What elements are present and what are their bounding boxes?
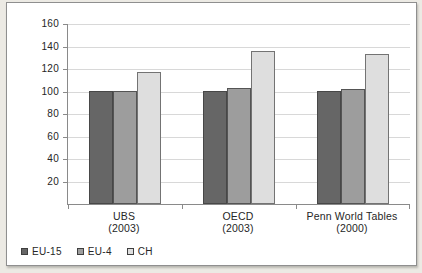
gridline-120	[68, 69, 410, 70]
plot-area	[67, 24, 410, 205]
bar-EU-15-UBS	[89, 91, 113, 204]
y-tick-label-60: 60	[7, 132, 59, 142]
gridline-140	[68, 47, 410, 48]
legend-label-EU-4: EU-4	[88, 246, 112, 257]
bar-EU-4-Penn World Tables	[341, 89, 365, 204]
x-tick-2	[296, 205, 297, 209]
y-axis-labels: 20406080100120140160	[7, 24, 59, 204]
y-tick-60	[63, 137, 67, 138]
category-year: (2003)	[222, 222, 254, 234]
gridline-160	[68, 24, 410, 25]
y-tick-label-140: 140	[7, 42, 59, 52]
legend: EU-15EU-4CH	[21, 246, 153, 257]
y-tick-40	[63, 159, 67, 160]
category-label-Penn World Tables: Penn World Tables(2000)	[306, 210, 397, 234]
legend-item-CH: CH	[127, 246, 153, 257]
y-tick-140	[63, 47, 67, 48]
y-tick-80	[63, 114, 67, 115]
legend-swatch-EU-15	[21, 248, 28, 255]
bar-EU-15-OECD	[203, 91, 227, 204]
y-tick-120	[63, 69, 67, 70]
category-name: UBS	[108, 210, 140, 222]
y-tick-20	[63, 182, 67, 183]
category-name: OECD	[222, 210, 254, 222]
x-axis-labels: UBS(2003)OECD(2003)Penn World Tables(200…	[67, 210, 409, 236]
category-name: Penn World Tables	[306, 210, 397, 222]
category-label-UBS: UBS(2003)	[108, 210, 140, 234]
y-tick-label-80: 80	[7, 109, 59, 119]
bar-CH-Penn World Tables	[365, 54, 389, 204]
legend-label-EU-15: EU-15	[32, 246, 62, 257]
legend-item-EU-15: EU-15	[21, 246, 62, 257]
y-tick-100	[63, 92, 67, 93]
y-tick-label-160: 160	[7, 19, 59, 29]
x-tick-0	[68, 205, 69, 209]
legend-swatch-EU-4	[77, 248, 84, 255]
legend-label-CH: CH	[138, 246, 153, 257]
y-tick-label-20: 20	[7, 177, 59, 187]
page: 20406080100120140160 UBS(2003)OECD(2003)…	[0, 0, 422, 273]
y-tick-label-40: 40	[7, 154, 59, 164]
y-tick-label-100: 100	[7, 87, 59, 97]
x-tick-1	[182, 205, 183, 209]
bar-CH-UBS	[137, 72, 161, 204]
x-tick-3	[409, 205, 410, 209]
category-label-OECD: OECD(2003)	[222, 210, 254, 234]
bar-EU-15-Penn World Tables	[317, 91, 341, 204]
legend-swatch-CH	[127, 248, 134, 255]
legend-item-EU-4: EU-4	[77, 246, 112, 257]
y-tick-label-120: 120	[7, 64, 59, 74]
category-year: (2000)	[306, 222, 397, 234]
bar-CH-OECD	[251, 51, 275, 204]
chart-panel: 20406080100120140160 UBS(2003)OECD(2003)…	[6, 2, 417, 266]
y-tick-160	[63, 24, 67, 25]
bar-EU-4-OECD	[227, 88, 251, 204]
category-year: (2003)	[108, 222, 140, 234]
bar-EU-4-UBS	[113, 91, 137, 204]
